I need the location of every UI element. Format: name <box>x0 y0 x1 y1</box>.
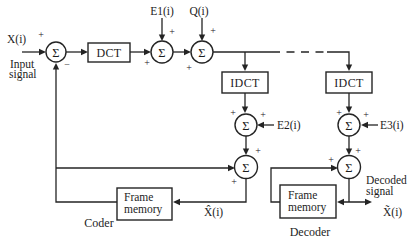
sigma-glyph: Σ <box>345 161 352 175</box>
arrowhead <box>365 199 372 205</box>
arrowhead <box>53 63 59 70</box>
plus-sign: + <box>144 57 150 68</box>
decoded-variable-label: X̃(i) <box>383 205 402 219</box>
plus-sign: + <box>210 25 216 36</box>
arrowhead <box>346 65 352 72</box>
input-variable-label: X(i) <box>7 33 26 46</box>
decoder-idct-block-label: IDCT <box>334 76 364 90</box>
sigma-glyph: Σ <box>158 46 165 60</box>
plus-sign: + <box>363 109 369 120</box>
codec-block-diagram: DCT IDCT IDCT Frame memory Frame memory … <box>0 0 417 245</box>
minus-sign: − <box>64 59 70 70</box>
coder-frame-memory-label-line2: memory <box>124 203 163 216</box>
sigma-glyph: Σ <box>242 161 249 175</box>
sum7-out-wire <box>343 179 366 203</box>
q-label: Q(i) <box>189 5 208 18</box>
blocks: DCT IDCT IDCT Frame memory Frame memory <box>88 43 372 220</box>
arrowhead <box>144 49 151 55</box>
e3-label: E3(i) <box>380 119 404 132</box>
arrowhead <box>81 49 88 55</box>
arrowhead <box>257 122 264 128</box>
sigma-glyph: Σ <box>52 46 59 60</box>
arrowhead <box>361 122 368 128</box>
plus-sign: + <box>230 107 236 118</box>
arrowhead <box>184 49 191 55</box>
plus-sign: + <box>169 26 175 37</box>
plus-sign: + <box>186 62 192 73</box>
input-caption-line2: signal <box>9 68 36 81</box>
coder-feedback-wire <box>56 68 117 202</box>
reconstructed-variable-label: X̂(i) <box>204 205 223 219</box>
figure-canvas: DCT IDCT IDCT Frame memory Frame memory … <box>0 0 417 245</box>
plus-sign: + <box>38 29 44 40</box>
dct-block-label: DCT <box>96 46 121 60</box>
coder-caption: Coder <box>84 216 113 230</box>
arrowhead <box>173 199 180 205</box>
sigma-glyph: Σ <box>198 46 205 60</box>
plus-sign: + <box>328 154 334 165</box>
arrowhead <box>199 35 205 42</box>
coder-idct-block-label: IDCT <box>230 76 260 90</box>
arrowhead <box>242 107 248 114</box>
plus-sign: + <box>336 107 342 118</box>
sigma-glyph: Σ <box>345 119 352 133</box>
coder-frame-memory-label-line1: Frame <box>124 191 153 203</box>
decoder-caption: Decoder <box>290 225 331 239</box>
plus-sign: + <box>255 145 261 156</box>
decoder-frame-memory-label-line2: memory <box>288 201 327 214</box>
arrowhead <box>243 149 249 156</box>
arrowhead <box>337 199 344 205</box>
arrowhead <box>39 49 46 55</box>
channel-wire-solid-right <box>327 52 349 65</box>
plus-sign: + <box>355 145 361 156</box>
arrowhead <box>346 149 352 156</box>
e2-label: E2(i) <box>277 119 301 132</box>
decoded-caption-line2: signal <box>366 185 393 198</box>
plus-sign: + <box>231 176 237 187</box>
decoder-frame-memory-label-line1: Frame <box>288 189 317 201</box>
plus-sign: + <box>260 109 266 120</box>
arrowhead <box>159 35 165 42</box>
e1-label: E1(i) <box>150 5 174 18</box>
arrowhead <box>242 65 248 72</box>
arrowhead <box>346 107 352 114</box>
sigma-glyph: Σ <box>242 119 249 133</box>
